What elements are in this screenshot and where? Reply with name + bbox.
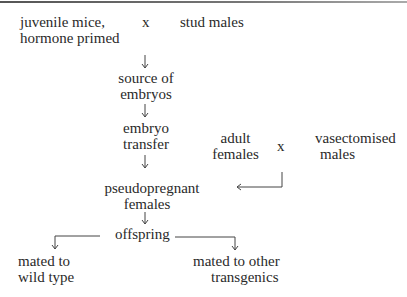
arrow-down-icon bbox=[142, 104, 148, 117]
arrow-down-icon bbox=[142, 55, 148, 68]
arrow-down-icon bbox=[142, 155, 148, 168]
arrow-branch-left-icon bbox=[52, 236, 100, 249]
connectors bbox=[0, 0, 407, 297]
arrow-branch-right-icon bbox=[175, 237, 238, 250]
arrow-left-connector-icon bbox=[237, 172, 282, 190]
arrow-down-icon bbox=[142, 212, 148, 224]
